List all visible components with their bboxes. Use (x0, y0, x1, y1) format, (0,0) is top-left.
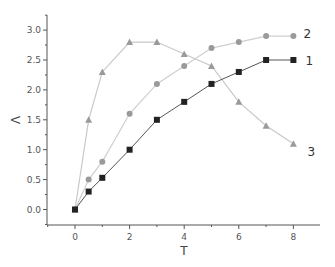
circle-marker (236, 39, 242, 45)
y-tick-label: 1.0 (27, 145, 42, 155)
square-marker (127, 147, 133, 153)
y-tick-label: 0.0 (27, 205, 42, 215)
series-2: 2 (72, 27, 311, 212)
square-marker (290, 57, 296, 63)
square-marker (99, 175, 105, 181)
triangle-marker (85, 116, 92, 123)
circle-marker (263, 33, 269, 39)
circle-marker (86, 177, 92, 183)
y-tick-label: 3.0 (27, 25, 42, 35)
series-line (75, 60, 293, 210)
square-marker (181, 99, 187, 105)
series-label: 3 (307, 145, 315, 159)
y-tick-label: 2.5 (27, 55, 41, 65)
x-tick-label: 8 (291, 232, 297, 242)
circle-marker (99, 159, 105, 165)
line-chart: 0.00.51.01.52.02.53.002468 321 T Λ (0, 0, 335, 267)
triangle-marker (181, 51, 188, 58)
series-3: 3 (72, 39, 316, 213)
square-marker (209, 81, 215, 87)
triangle-marker (208, 62, 215, 69)
y-tick-label: 1.5 (27, 115, 41, 125)
x-tick-label: 4 (181, 232, 187, 242)
y-tick-label: 2.0 (27, 85, 42, 95)
square-marker (86, 189, 92, 195)
square-marker (263, 57, 269, 63)
square-marker (72, 207, 78, 213)
circle-marker (127, 111, 133, 117)
x-tick-label: 0 (72, 232, 78, 242)
circle-marker (181, 63, 187, 69)
circle-marker (209, 45, 215, 51)
y-tick-label: 0.5 (27, 175, 41, 185)
x-tick-label: 6 (236, 232, 242, 242)
triangle-marker (290, 140, 297, 147)
series-label: 1 (305, 54, 313, 68)
x-axis-label: T (179, 244, 188, 258)
series-layer: 321 (72, 27, 316, 212)
circle-marker (290, 33, 296, 39)
square-marker (154, 117, 160, 123)
x-tick-label: 2 (127, 232, 133, 242)
series-label: 2 (303, 27, 311, 41)
y-axis-label: Λ (9, 115, 23, 124)
square-marker (236, 69, 242, 75)
circle-marker (154, 81, 160, 87)
